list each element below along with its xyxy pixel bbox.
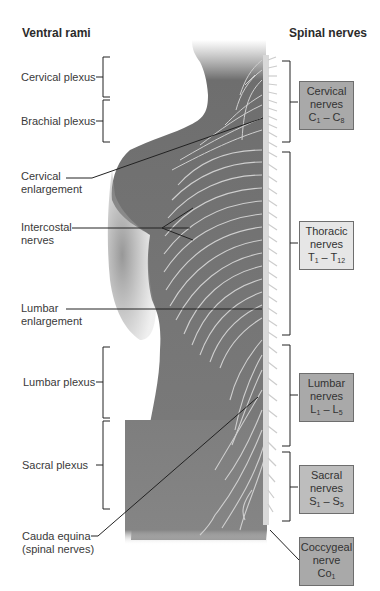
sacral-nerves-box: Sacral nerves S1 – S5 <box>299 465 354 514</box>
cervical-range: C1 – C8 <box>300 111 353 127</box>
coccygeal-range: Co1 <box>300 567 353 583</box>
sacral-range: S1 – S5 <box>300 495 353 511</box>
sacral-nerves-bracket <box>282 452 290 521</box>
brachial-plexus-label: Brachial plexus <box>21 115 96 128</box>
brachial-plexus-bracket <box>103 100 110 142</box>
body-silhouette <box>108 40 267 545</box>
cervical-nerves-box: Cervical nerves C1 – C8 <box>299 81 354 130</box>
coccygeal-nerve-pointer <box>270 530 299 560</box>
spinal-cord <box>263 55 277 525</box>
spinal-nerves-diagram: Ventral rami Spinal nerves Cervical plex… <box>0 0 380 591</box>
intercostal-nerves-label: Intercostal nerves <box>21 221 72 247</box>
coccygeal-nerve-box: Coccygeal nerve Co1 <box>299 537 354 586</box>
lumbar-range: L1 – L5 <box>300 403 353 419</box>
cervical-enlargement-label: Cervical enlargement <box>21 170 82 196</box>
thoracic-nerves-box: Thoracic nerves T1 – T12 <box>299 221 354 270</box>
lumbar-enlargement-label: Lumbar enlargement <box>21 302 82 328</box>
lumbar-nerves-box: Lumbar nerves L1 – L5 <box>299 373 354 422</box>
sacral-plexus-bracket <box>103 421 110 509</box>
cervical-plexus-bracket <box>103 57 110 97</box>
lumbar-plexus-bracket <box>103 347 110 418</box>
sacral-plexus-label: Sacral plexus <box>22 459 88 472</box>
lumbar-nerves-bracket <box>282 345 290 446</box>
thoracic-range: T1 – T12 <box>300 251 353 267</box>
cauda-equina-label: Cauda equina (spinal nerves) <box>22 530 94 556</box>
cervical-plexus-label: Cervical plexus <box>21 71 96 84</box>
thoracic-nerves-bracket <box>282 152 290 335</box>
ventral-rami-header: Ventral rami <box>22 26 91 40</box>
cervical-nerves-bracket <box>282 61 290 142</box>
spinal-nerves-header: Spinal nerves <box>289 26 367 40</box>
lumbar-plexus-label: Lumbar plexus <box>23 376 95 389</box>
